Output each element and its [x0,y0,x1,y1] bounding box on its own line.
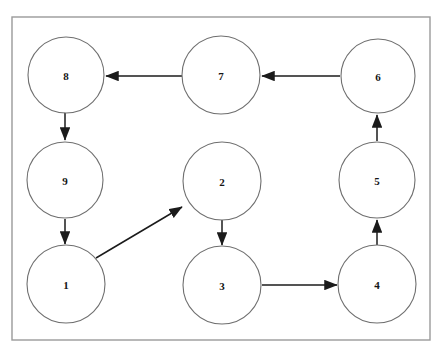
diagram-svg: 876925134 [0,0,445,353]
node-label-2: 2 [219,176,225,188]
node-label-5: 5 [374,175,380,187]
node-label-6: 6 [375,71,381,83]
diagram-canvas: 876925134 [0,0,445,353]
node-label-9: 9 [62,175,68,187]
node-label-8: 8 [63,70,69,82]
node-layer: 876925134 [27,36,416,324]
node-label-4: 4 [374,279,380,291]
node-5[interactable]: 5 [339,142,415,218]
node-4[interactable]: 4 [338,245,416,323]
node-9[interactable]: 9 [27,142,103,218]
node-1[interactable]: 1 [27,245,105,323]
node-8[interactable]: 8 [28,37,104,113]
node-3[interactable]: 3 [183,246,261,324]
node-2[interactable]: 2 [183,142,261,220]
node-7[interactable]: 7 [182,36,260,114]
node-label-1: 1 [63,279,69,291]
node-6[interactable]: 6 [341,39,415,113]
node-label-3: 3 [219,280,225,292]
node-label-7: 7 [218,70,224,82]
